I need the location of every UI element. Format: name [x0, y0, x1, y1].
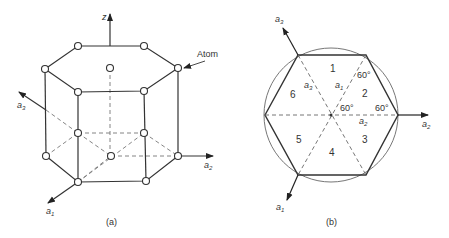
angle-label-top: 60°: [357, 70, 371, 80]
hexagonal-lattice-figure: z Atom a3 a2 a1 (a) a3 a2 a1 a3 a1 a2 1 …: [0, 0, 449, 238]
b-a3-label: a3: [275, 14, 284, 25]
a1-label: a1: [46, 206, 54, 217]
atoms: [42, 43, 182, 186]
b-a1-label: a1: [276, 202, 284, 213]
atom-label: Atom: [197, 49, 218, 59]
panel-b: [264, 28, 428, 200]
panel-a-labels: z Atom a3 a2 a1 (a): [17, 12, 218, 227]
panel-a: [19, 14, 213, 203]
region-2: 2: [362, 88, 368, 99]
a1-axis: [48, 182, 78, 203]
caption-a: (a): [106, 217, 117, 227]
inner-a2-label: a2: [359, 116, 368, 127]
region-3: 3: [362, 134, 368, 145]
angle-label-center: 60°: [340, 103, 354, 113]
region-6: 6: [290, 89, 296, 100]
origin-dot: [330, 114, 333, 117]
b-a1-axis: [287, 175, 298, 200]
inner-a1-label: a1: [335, 80, 343, 91]
panel-b-labels: a3 a2 a1 a3 a1 a2 1 2 3 4 5 6 60° 60° 60…: [275, 14, 431, 227]
a2-label: a2: [204, 160, 213, 171]
caption-b: (b): [326, 217, 337, 227]
region-1: 1: [330, 63, 336, 74]
region-5: 5: [296, 134, 302, 145]
hidden-edges: [46, 68, 178, 182]
b-a3-axis: [283, 28, 298, 55]
atom-pointer: [184, 61, 205, 68]
b-a2-label: a2: [422, 119, 431, 130]
z-label: z: [101, 12, 107, 22]
angle-label-right: 60°: [375, 103, 389, 113]
a3-label: a3: [17, 100, 26, 111]
region-4: 4: [329, 147, 335, 158]
inner-a3-label: a3: [304, 80, 313, 91]
